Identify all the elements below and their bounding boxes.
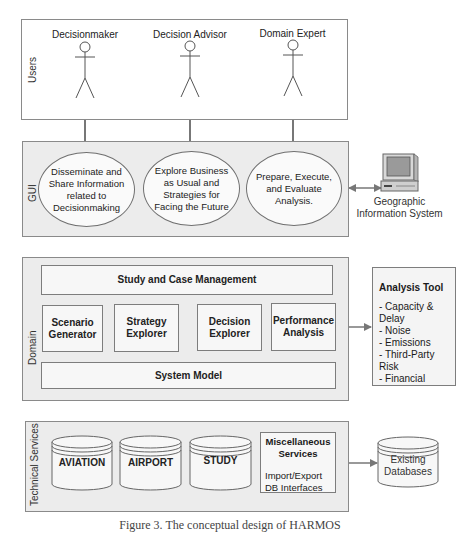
gui-function-analysis: Prepare, Execute, and Evaluate Analysis. <box>246 151 342 226</box>
misc-services-db-interfaces: DB Interfaces <box>261 482 335 494</box>
misc-services-import-export: Import/Export <box>261 470 335 482</box>
gis-label-line1: Geographic <box>352 196 447 208</box>
stick-figure-icon <box>75 42 95 98</box>
gis-label: Geographic Information System <box>352 196 447 220</box>
gis-label-line2: Information System <box>352 208 447 220</box>
domain-layer-label: Domain <box>27 331 38 365</box>
analysis-tool-item: - Third-Party Risk <box>379 349 455 373</box>
scenario-generator-box: Scenario Generator <box>42 305 103 352</box>
misc-services-title: Miscellaneous Services <box>261 436 335 460</box>
study-database: STUDY <box>190 455 251 469</box>
study-case-management-box: Study and Case Management <box>41 265 333 295</box>
study-database-label: STUDY <box>190 455 251 466</box>
gui-layer-label: GUI <box>27 184 38 202</box>
strategy-explorer-box: Strategy Explorer <box>114 304 179 352</box>
aviation-database-label: AVIATION <box>52 457 112 468</box>
gui-function-disseminate: Disseminate and Share Information relate… <box>38 152 135 227</box>
existing-databases-label: Existing Databases <box>378 454 438 478</box>
decision-explorer-box: Decision Explorer <box>197 304 262 351</box>
analysis-tool-item: - Noise <box>379 325 455 337</box>
analysis-tool-title: Analysis Tool <box>379 282 455 293</box>
analysis-tool-box: Analysis Tool - Capacity & Delay - Noise… <box>372 267 456 386</box>
existing-databases-line1: Existing <box>378 454 438 466</box>
system-model-box: System Model <box>41 362 336 389</box>
airport-database: AIRPORT <box>120 457 181 471</box>
figure-caption: Figure 3. The conceptual design of HARMO… <box>90 518 370 533</box>
stick-figure-icon <box>180 41 200 97</box>
analysis-tool-item: - Financial <box>379 373 455 385</box>
analysis-tool-item: - Capacity & Delay <box>379 301 455 325</box>
aviation-database: AVIATION <box>52 457 112 471</box>
stick-figure-icon <box>283 40 303 96</box>
performance-analysis-box: Performance Analysis <box>271 303 336 351</box>
airport-database-label: AIRPORT <box>120 457 181 468</box>
miscellaneous-services-box: Miscellaneous Services Import/Export DB … <box>260 432 336 493</box>
computer-icon <box>380 152 420 196</box>
actor-icons <box>0 0 473 120</box>
existing-databases-line2: Databases <box>378 466 438 478</box>
gui-function-explore: Explore Business as Usual and Strategies… <box>143 151 240 226</box>
analysis-tool-item: - Emissions <box>379 337 455 349</box>
